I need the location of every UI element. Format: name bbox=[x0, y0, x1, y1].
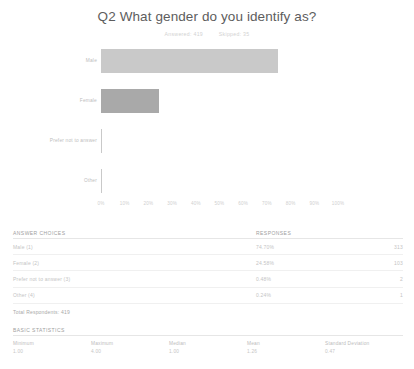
stat-mean: Mean 1.26 bbox=[247, 341, 325, 354]
answer-percent: 24.58% bbox=[256, 260, 356, 266]
table-row: Prefer not to answer (3) 0.48% 2 bbox=[13, 271, 403, 287]
category-label: Prefer not to answer bbox=[0, 137, 101, 144]
bar-track bbox=[101, 89, 338, 113]
statistics-row: Minimum 1.00 Maximum 4.00 Median 1.00 Me… bbox=[13, 336, 403, 354]
axis-tick: 50% bbox=[215, 201, 225, 206]
table-row: Female (2) 24.58% 103 bbox=[13, 255, 403, 271]
axis-tick: 100% bbox=[332, 201, 345, 206]
answer-choices-table: ANSWER CHOICES RESPONSES Male (1) 74.70%… bbox=[13, 230, 403, 315]
stat-median: Median 1.00 bbox=[169, 341, 247, 354]
axis-tick: 90% bbox=[309, 201, 319, 206]
bar-male bbox=[101, 49, 278, 73]
answer-percent: 0.48% bbox=[256, 276, 356, 282]
bar-track bbox=[101, 49, 338, 73]
answer-count: 1 bbox=[356, 292, 403, 298]
bar-chart: Male Female Prefer not to answer Other 0… bbox=[0, 49, 414, 209]
answered-count: Answered: 419 bbox=[165, 31, 204, 37]
answer-choice-label: Female (2) bbox=[13, 260, 256, 266]
axis-tick: 60% bbox=[238, 201, 248, 206]
table-row: Male (1) 74.70% 313 bbox=[13, 239, 403, 255]
bar-other bbox=[101, 169, 102, 193]
axis-tick: 40% bbox=[191, 201, 201, 206]
stat-label: Median bbox=[169, 341, 247, 346]
answer-choice-label: Other (4) bbox=[13, 292, 256, 298]
column-header-responses: RESPONSES bbox=[256, 230, 356, 236]
column-header-answer-choices: ANSWER CHOICES bbox=[13, 230, 256, 236]
axis-tick: 20% bbox=[143, 201, 153, 206]
axis-tick: 70% bbox=[262, 201, 272, 206]
axis-tick: 0% bbox=[97, 201, 104, 206]
category-label: Male bbox=[0, 57, 101, 64]
chart-row: Other bbox=[0, 169, 414, 193]
stat-value: 1.26 bbox=[247, 349, 325, 354]
stat-label: Mean bbox=[247, 341, 325, 346]
answer-percent: 0.24% bbox=[256, 292, 356, 298]
stat-value: 4.00 bbox=[91, 349, 169, 354]
stat-label: Minimum bbox=[13, 341, 91, 346]
stat-standard-deviation: Standard Deviation 0.47 bbox=[325, 341, 403, 354]
bar-track bbox=[101, 169, 338, 193]
bar-prefer-not-to-answer bbox=[101, 129, 102, 153]
answer-percent: 74.70% bbox=[256, 244, 356, 250]
stat-value: 1.00 bbox=[13, 349, 91, 354]
chart-row: Male bbox=[0, 49, 414, 73]
chart-row: Female bbox=[0, 89, 414, 113]
bar-track bbox=[101, 129, 338, 153]
axis-tick: 80% bbox=[286, 201, 296, 206]
stat-value: 1.00 bbox=[169, 349, 247, 354]
basic-statistics-table: BASIC STATISTICS Minimum 1.00 Maximum 4.… bbox=[13, 327, 403, 354]
chart-row: Prefer not to answer bbox=[0, 129, 414, 153]
stat-value: 0.47 bbox=[325, 349, 403, 354]
answer-count: 2 bbox=[356, 276, 403, 282]
axis-tick: 10% bbox=[120, 201, 130, 206]
answer-count: 313 bbox=[356, 244, 403, 250]
page-title: Q2 What gender do you identify as? bbox=[0, 0, 414, 24]
x-axis: 0% 10% 20% 30% 40% 50% 60% 70% 80% 90% 1… bbox=[101, 201, 338, 211]
table-row: Other (4) 0.24% 1 bbox=[13, 288, 403, 304]
answer-count: 103 bbox=[356, 260, 403, 266]
stat-minimum: Minimum 1.00 bbox=[13, 341, 91, 354]
answer-choice-label: Male (1) bbox=[13, 244, 256, 250]
stat-label: Standard Deviation bbox=[325, 341, 403, 346]
axis-tick: 30% bbox=[167, 201, 177, 206]
column-header-count bbox=[356, 230, 403, 236]
response-summary: Answered: 419 Skipped: 35 bbox=[0, 31, 414, 37]
stat-label: Maximum bbox=[91, 341, 169, 346]
category-label: Female bbox=[0, 97, 101, 104]
total-respondents: Total Respondents: 419 bbox=[13, 304, 403, 315]
bar-female bbox=[101, 89, 159, 113]
basic-statistics-heading: BASIC STATISTICS bbox=[13, 327, 403, 336]
table-header: ANSWER CHOICES RESPONSES bbox=[13, 230, 403, 239]
category-label: Other bbox=[0, 177, 101, 184]
answer-choice-label: Prefer not to answer (3) bbox=[13, 276, 256, 282]
skipped-count: Skipped: 35 bbox=[219, 31, 250, 37]
stat-maximum: Maximum 4.00 bbox=[91, 341, 169, 354]
